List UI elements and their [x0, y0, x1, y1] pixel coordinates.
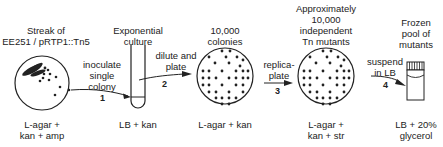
frozen-vial-medium: LB + 20% glycerol	[388, 119, 443, 141]
frozen-vial-title: Frozen pool of mutants	[390, 17, 442, 50]
streak-plate-icon	[15, 56, 70, 110]
frozen-vial-icon	[407, 62, 424, 100]
step-line: in LB	[365, 67, 405, 78]
culture-tube-icon	[131, 45, 145, 108]
medium-line: kan + str	[296, 130, 356, 141]
title-line: colonies	[195, 36, 255, 47]
colony-plate-icon	[197, 48, 253, 105]
title-line: independent	[288, 25, 364, 36]
title-line: culture	[108, 36, 168, 47]
step-3-label: replica- plate	[259, 59, 299, 81]
streak-plate-title: Streak of EE251 / pRTP1::Tn5	[2, 25, 90, 47]
title-line: mutants	[390, 39, 442, 50]
title-line: Exponential	[108, 25, 168, 36]
colony-plate-medium: L-agar + kan	[190, 119, 260, 130]
step-1-label: inoculate single colony	[78, 59, 126, 92]
title-line: Tn mutants	[288, 36, 364, 47]
step-line: dilute and	[150, 50, 202, 61]
step-line: replica-	[259, 59, 299, 70]
title-line: 10,000	[195, 25, 255, 36]
title-line: Frozen	[390, 17, 442, 28]
step-4-number: 4	[383, 80, 388, 90]
culture-tube-medium: LB + kan	[108, 119, 168, 130]
step-line: colony	[78, 81, 126, 92]
culture-tube-title: Exponential culture	[108, 25, 168, 47]
step-line: plate	[259, 70, 299, 81]
title-line: EE251 / pRTP1::Tn5	[2, 36, 90, 47]
step-2-number: 2	[162, 79, 167, 89]
medium-line: kan + amp	[2, 130, 82, 141]
step-line: suspend	[365, 56, 405, 67]
mutant-plate-medium: L-agar + kan + str	[296, 119, 356, 141]
step-1-number: 1	[100, 93, 105, 103]
title-line: pool of	[390, 28, 442, 39]
step-line: single	[78, 70, 126, 81]
streak-plate-medium: L-agar + kan + amp	[2, 119, 82, 141]
medium-line: glycerol	[388, 130, 443, 141]
title-line: Streak of	[2, 25, 90, 36]
medium-line: L-agar +	[296, 119, 356, 130]
colony-plate-title: 10,000 colonies	[195, 25, 255, 47]
step-line: plate	[150, 61, 202, 72]
title-line: Approximately	[288, 3, 364, 14]
step-4-label: suspend in LB	[365, 56, 405, 78]
step-3-number: 3	[275, 86, 280, 96]
step-2-label: dilute and plate	[150, 50, 202, 72]
step-line: inoculate	[78, 59, 126, 70]
medium-line: LB + kan	[108, 119, 168, 130]
mutant-plate-icon	[298, 48, 354, 105]
title-line: 10,000	[288, 14, 364, 25]
medium-line: LB + 20%	[388, 119, 443, 130]
medium-line: L-agar + kan	[190, 119, 260, 130]
mutant-plate-title: Approximately 10,000 independent Tn muta…	[288, 3, 364, 47]
medium-line: L-agar +	[2, 119, 82, 130]
